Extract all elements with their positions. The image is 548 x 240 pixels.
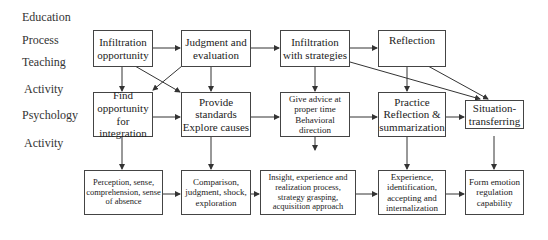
box-insight: Insight, experience and realization proc… [260, 170, 356, 215]
box-find-opportunity: Find opportunity for integration [93, 92, 153, 137]
box-reflection: Reflection [378, 30, 446, 67]
box-situation-transferring: Situation-transferring [465, 100, 524, 129]
box-judgment-evaluation: Judgment and evaluation [181, 30, 251, 67]
box-practice-reflection: Practice Reflection & summarization [378, 92, 446, 137]
box-provide-standards: Provide standards Explore causes [181, 92, 251, 137]
box-give-advice: Give advice at proper time Behavioral di… [280, 92, 350, 137]
box-infiltration-opportunity: Infiltration opportunity [93, 30, 153, 67]
box-comparison: Comparison, judgment, shock, exploration [181, 170, 251, 215]
box-infiltration-strategies: Infiltration with strategies [280, 30, 350, 67]
box-experience: Experience, identification, accepting an… [378, 170, 446, 215]
box-perception: Perception, sense, comprehension, sense … [84, 170, 163, 215]
box-form-emotion: Form emotion regulation capability [465, 170, 524, 215]
